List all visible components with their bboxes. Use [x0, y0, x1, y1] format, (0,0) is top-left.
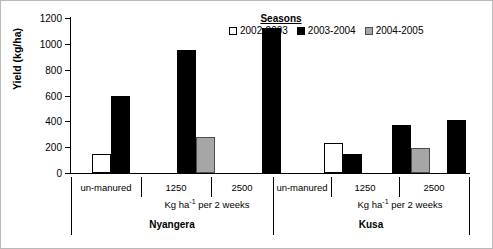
y-axis-tick	[65, 121, 70, 122]
y-axis-tick	[65, 70, 70, 71]
legend-item-2003-2004: 2003-2004	[297, 25, 356, 36]
legend-items: 2002-2003 2003-2004 2004-2005	[229, 25, 479, 36]
bar	[411, 148, 430, 173]
bar	[177, 50, 196, 173]
x-axis-site-label: Nyangera	[71, 219, 273, 230]
y-axis-tick	[65, 147, 70, 148]
y-axis-tick-label: 200	[45, 142, 62, 153]
bar	[92, 154, 111, 173]
y-axis-tick-label: 800	[45, 64, 62, 75]
x-axis-site-label: Kusa	[273, 219, 469, 230]
bar	[324, 143, 343, 173]
legend-title: Seasons	[235, 13, 327, 24]
x-axis-category-label: 2500	[399, 182, 469, 193]
bar	[343, 154, 362, 173]
legend-swatch-icon	[297, 27, 305, 35]
x-axis-category-label: un-manured	[273, 182, 331, 193]
x-axis-category-label: 1250	[141, 182, 211, 193]
legend-label: 2004-2005	[376, 25, 424, 36]
bar	[392, 125, 411, 173]
legend-swatch-icon	[365, 27, 373, 35]
legend-label: 2003-2004	[308, 25, 356, 36]
plot-area	[71, 18, 469, 173]
bar	[262, 28, 281, 173]
y-axis-tick-label: 600	[45, 90, 62, 101]
y-axis-tick-label: 1000	[40, 38, 62, 49]
y-axis-tick	[65, 173, 70, 174]
bar	[111, 96, 130, 173]
legend-swatch-icon	[229, 27, 237, 35]
legend-label: 2002-2003	[240, 25, 288, 36]
y-axis-tick	[65, 44, 70, 45]
legend-item-2002-2003: 2002-2003	[229, 25, 288, 36]
x-axis-separator	[469, 177, 470, 197]
legend: Seasons 2002-2003 2003-2004 2004-2005	[229, 13, 479, 36]
x-axis-category-label: un-manured	[71, 182, 141, 193]
bar	[447, 120, 466, 173]
y-axis-tick-label: 1200	[40, 13, 62, 24]
x-axis-label-block: un-manured12502500un-manured12502500Kg h…	[1, 173, 493, 249]
x-axis-group-separator	[469, 197, 470, 235]
chart-figure: Yield (kg/ha) 020040060080010001200 un-m…	[0, 0, 493, 249]
x-axis-unit-label: Kg ha-1 per 2 weeks	[331, 198, 469, 210]
x-axis-unit-label: Kg ha-1 per 2 weeks	[141, 198, 273, 210]
y-axis-tick	[65, 96, 70, 97]
y-axis-tick-label: 400	[45, 116, 62, 127]
x-axis-category-label: 2500	[211, 182, 273, 193]
bar	[196, 137, 215, 173]
x-axis-category-label: 1250	[331, 182, 399, 193]
legend-item-2004-2005: 2004-2005	[365, 25, 424, 36]
y-axis-tick	[65, 18, 70, 19]
